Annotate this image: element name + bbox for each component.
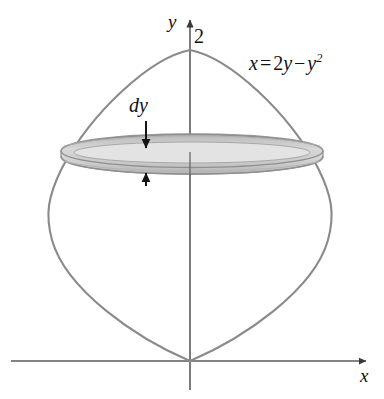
- equation-exponent: 2: [316, 51, 322, 65]
- y-axis-label: y: [168, 12, 176, 31]
- equation-term2-variable: y: [307, 52, 316, 74]
- representative-disk-band: [61, 134, 323, 176]
- axes-group: [11, 20, 366, 390]
- y-axis-tick-label-2: 2: [194, 26, 204, 46]
- equation-minus: −: [292, 52, 307, 74]
- equation-coefficient: 2: [273, 52, 283, 74]
- dy-thickness-label: dy: [129, 95, 148, 115]
- x-axis-label: x: [360, 366, 368, 385]
- solid-outline-left: [48, 50, 190, 361]
- solid-outline-right: [190, 50, 332, 361]
- curve-equation-label: x=2y−y2: [249, 52, 322, 73]
- dy-differential: d: [129, 94, 139, 116]
- equation-equals: =: [258, 52, 273, 74]
- solid-of-revolution-figure: [0, 0, 384, 399]
- disk-top-face-highlight: [74, 142, 310, 163]
- equation-term1-variable: y: [283, 52, 292, 74]
- equation-lhs: x: [249, 52, 258, 74]
- dy-variable: y: [139, 94, 148, 116]
